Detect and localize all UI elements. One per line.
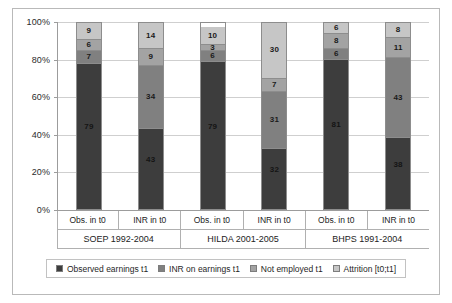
bar-segment[interactable]: 6: [201, 51, 225, 62]
bar-segment-value: 6: [210, 52, 215, 60]
stacked-bar[interactable]: 68681: [323, 22, 349, 210]
bar-segment[interactable]: 14: [139, 23, 163, 49]
y-axis-tick-label: 100%: [27, 17, 50, 27]
bar-segment-value: 7: [87, 53, 92, 61]
bar-segment-value: 11: [394, 44, 403, 52]
bar-segment-value: 6: [334, 24, 339, 32]
bar-segment[interactable]: 38: [386, 138, 410, 209]
bar-segment-value: 7: [272, 81, 277, 89]
stacked-bar[interactable]: 103679: [200, 22, 226, 210]
legend-swatch-icon: [158, 265, 165, 272]
legend-swatch-icon: [250, 265, 257, 272]
bar-group: 1036793073132: [182, 22, 306, 210]
category-label: INR in t0: [243, 211, 305, 229]
y-axis-tick-label: 20%: [32, 167, 50, 177]
bars-layer: 9677914934431036793073132686818114338: [58, 22, 429, 210]
bar-segment[interactable]: 7: [77, 51, 101, 64]
bar-slot: 68681: [305, 22, 367, 210]
bar-segment[interactable]: 9: [77, 23, 101, 40]
bar-segment[interactable]: 81: [324, 60, 348, 209]
bar-segment-value: 43: [393, 94, 402, 102]
y-axis-tick-label: 60%: [32, 92, 50, 102]
category-axis: Obs. in t0INR in t0SOEP 1992-2004Obs. in…: [57, 211, 429, 249]
stacked-bar[interactable]: 96779: [76, 22, 102, 210]
bar-segment[interactable]: 10: [201, 27, 225, 46]
bar-segment[interactable]: 30: [262, 23, 286, 79]
plot-wrapper: 100%80%60%40%20%0% 967791493443103679307…: [57, 22, 429, 211]
bar-slot: 8114338: [367, 22, 429, 210]
bar-segment[interactable]: 79: [77, 64, 101, 209]
legend-label: INR on earnings t1: [169, 264, 240, 274]
bar-segment[interactable]: 6: [77, 40, 101, 51]
category-group: Obs. in t0INR in t0BHPS 1991-2004: [305, 211, 429, 248]
bar-slot: 1493443: [120, 22, 182, 210]
category-label: Obs. in t0: [57, 211, 118, 229]
bar-segment-value: 6: [87, 41, 92, 49]
stacked-bar[interactable]: 8114338: [385, 22, 411, 210]
bar-segment-value: 79: [208, 123, 217, 131]
bar-group: 686818114338: [305, 22, 429, 210]
bar-segment-value: 14: [146, 32, 155, 40]
bar-slot: 3073132: [244, 22, 306, 210]
group-label: BHPS 1991-2004: [306, 230, 429, 248]
bar-group: 967791493443: [58, 22, 182, 210]
legend-label: Not employed t1: [261, 264, 323, 274]
bar-segment[interactable]: 43: [386, 58, 410, 138]
category-group: Obs. in t0INR in t0HILDA 2001-2005: [180, 211, 304, 248]
y-axis-tick-label: 0%: [37, 205, 50, 215]
category-row: Obs. in t0INR in t0: [181, 211, 304, 230]
y-axis-tick-label: 40%: [32, 130, 50, 140]
bar-segment-value: 6: [334, 50, 339, 58]
stacked-bar-chart: 100%80%60%40%20%0% 967791493443103679307…: [0, 0, 452, 303]
category-label: Obs. in t0: [181, 211, 242, 229]
group-label: HILDA 2001-2005: [181, 230, 304, 248]
legend-label: Observed earnings t1: [67, 264, 148, 274]
bar-segment-value: 79: [84, 123, 93, 131]
bar-segment[interactable]: 34: [139, 66, 163, 129]
bar-segment-value: 31: [270, 116, 279, 124]
bar-segment-value: 43: [146, 156, 155, 164]
stacked-bar[interactable]: 1493443: [138, 22, 164, 210]
bar-segment[interactable]: 6: [324, 49, 348, 60]
bar-segment-value: 8: [396, 26, 401, 34]
bar-segment-value: 34: [146, 93, 155, 101]
bar-segment[interactable]: 8: [324, 34, 348, 49]
chart-legend: Observed earnings t1INR on earnings t1No…: [46, 259, 406, 278]
bar-segment[interactable]: 31: [262, 92, 286, 150]
bar-segment[interactable]: 7: [262, 79, 286, 92]
legend-label: Attrition [t0;t1]: [344, 264, 396, 274]
bar-segment-value: 9: [87, 27, 92, 35]
category-row: Obs. in t0INR in t0: [57, 211, 180, 230]
bar-slot: 96779: [58, 22, 120, 210]
bar-segment-value: 8: [334, 37, 339, 45]
legend-swatch-icon: [56, 265, 63, 272]
category-label: Obs. in t0: [306, 211, 367, 229]
bar-segment-value: 38: [393, 161, 402, 169]
legend-swatch-icon: [333, 265, 340, 272]
bar-segment[interactable]: 6: [324, 23, 348, 34]
bar-segment-value: 81: [332, 121, 341, 129]
bar-segment[interactable]: 8: [386, 23, 410, 38]
bar-slot: 103679: [182, 22, 244, 210]
bar-segment-value: 9: [148, 53, 153, 61]
legend-item[interactable]: Observed earnings t1: [56, 264, 148, 274]
category-group: Obs. in t0INR in t0SOEP 1992-2004: [57, 211, 180, 248]
bar-segment-value: 10: [208, 32, 217, 40]
category-row: Obs. in t0INR in t0: [306, 211, 429, 230]
legend-item[interactable]: INR on earnings t1: [158, 264, 240, 274]
legend-item[interactable]: Not employed t1: [250, 264, 323, 274]
legend-item[interactable]: Attrition [t0;t1]: [333, 264, 396, 274]
bar-segment[interactable]: 32: [262, 149, 286, 209]
bar-segment[interactable]: 9: [139, 49, 163, 66]
category-label: INR in t0: [367, 211, 429, 229]
y-axis-tick-label: 80%: [32, 55, 50, 65]
group-label: SOEP 1992-2004: [57, 230, 180, 248]
bar-segment-value: 32: [270, 166, 279, 174]
plot-area: 100%80%60%40%20%0% 967791493443103679307…: [57, 22, 429, 211]
bar-segment[interactable]: 79: [201, 62, 225, 209]
category-label: INR in t0: [118, 211, 180, 229]
bar-segment[interactable]: 11: [386, 38, 410, 58]
bar-segment-value: 30: [270, 46, 279, 54]
stacked-bar[interactable]: 3073132: [261, 22, 287, 210]
bar-segment[interactable]: 43: [139, 129, 163, 209]
